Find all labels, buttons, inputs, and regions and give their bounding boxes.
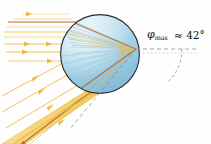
water-droplet — [61, 15, 140, 94]
angle-symbol: φ — [147, 28, 155, 41]
figure-canvas — [0, 0, 211, 144]
angle-arc — [168, 49, 182, 82]
rainbow-raindrop-figure: φmax ≈ 42° — [0, 0, 211, 144]
angle-subscript: max — [155, 34, 168, 42]
angle-value: ≈ 42° — [174, 29, 205, 41]
angle-label: φmax — [147, 28, 168, 42]
